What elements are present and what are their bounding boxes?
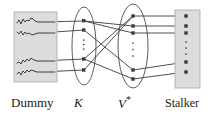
k-node-4 [82, 68, 85, 71]
stalker-group [175, 10, 200, 88]
vstar-node-3 [131, 31, 134, 34]
stalker-box [175, 10, 200, 88]
stalker-node-3 [184, 31, 187, 34]
edge-group-k-to-vstar [84, 16, 133, 79]
k-node-3 [82, 57, 85, 60]
vstar-node-1 [131, 14, 134, 17]
edge-k4-v1 [84, 16, 133, 70]
edge-k2-v4 [84, 30, 133, 70]
label-vstar: V* [118, 95, 131, 110]
vstar-vertical-ellipsis-icon [132, 42, 134, 57]
k-ellipse [72, 7, 96, 85]
stalker-node-1 [184, 14, 187, 17]
k-nodes [82, 19, 85, 72]
k-vertical-ellipsis-icon [83, 39, 85, 50]
label-vstar-superscript: * [126, 94, 131, 105]
vstar-node-2 [131, 24, 134, 27]
vstar-group [118, 4, 148, 88]
k-node-1 [82, 19, 85, 22]
dummy-group [14, 12, 57, 82]
label-stalker: Stalker [165, 97, 199, 109]
label-dummy: Dummy [11, 96, 54, 109]
vstar-node-5 [131, 77, 134, 80]
stalker-node-4 [184, 60, 187, 63]
label-vstar-base: V [118, 96, 126, 111]
label-k: K [74, 96, 83, 109]
k-node-2 [82, 28, 85, 31]
k-group [72, 7, 96, 85]
stalker-node-5 [184, 70, 187, 73]
mapping-diagram-figure: Dummy K V* Stalker [0, 0, 221, 119]
vstar-nodes [131, 14, 134, 80]
stalker-node-2 [184, 24, 187, 27]
vstar-node-4 [131, 68, 134, 71]
